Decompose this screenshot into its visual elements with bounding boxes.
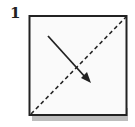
paper-square [30,16,127,115]
origami-diagram [0,0,135,127]
